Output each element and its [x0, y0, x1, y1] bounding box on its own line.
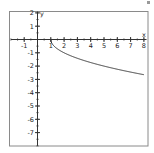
x-tick-label: -1 — [21, 42, 27, 50]
y-tick-label: 1 — [30, 23, 34, 31]
x-tick-label: 4 — [89, 42, 93, 50]
x-tick-label: 8 — [142, 42, 146, 50]
y-tick-label: -5 — [28, 102, 34, 110]
x-tick-label: 2 — [62, 42, 66, 50]
x-tick-label: 5 — [102, 42, 106, 50]
y-tick-label: 2 — [30, 9, 34, 17]
function-plot: -112345678 21-1-2-3-4-5-6-7 x y — [0, 0, 154, 153]
y-tick-label: -2 — [28, 62, 34, 70]
corner-artifact — [147, 1, 150, 4]
x-tick-label: 3 — [75, 42, 79, 50]
x-axis-label: x — [142, 31, 146, 39]
y-tick-label: -6 — [28, 116, 34, 124]
x-tick-label: 6 — [115, 42, 119, 50]
y-tick-label: -1 — [28, 49, 34, 57]
y-tick-label: -4 — [28, 89, 34, 97]
y-tick-label: -3 — [28, 76, 34, 84]
x-tick-label: 7 — [129, 42, 133, 50]
y-axis-label: y — [40, 10, 44, 18]
x-axis-ticks: -112345678 — [21, 37, 146, 50]
y-tick-label: -7 — [28, 129, 34, 137]
